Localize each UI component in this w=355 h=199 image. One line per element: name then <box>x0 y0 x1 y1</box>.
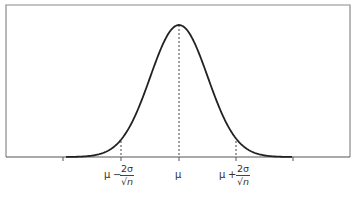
fraction-2sigma-over-sqrt-n: 2σ √n <box>120 164 134 186</box>
fraction-denominator: √n <box>121 176 133 187</box>
fraction-numerator: 2σ <box>236 164 250 176</box>
fraction-numerator: 2σ <box>120 164 134 176</box>
n-variable: n <box>243 176 249 187</box>
label-mu: μ <box>175 170 181 180</box>
plot-frame <box>6 5 350 157</box>
label-mu-plus-base: μ <box>219 170 225 180</box>
fraction-denominator: √n <box>237 176 249 187</box>
n-variable: n <box>127 176 133 187</box>
label-mu-minus-base: μ <box>104 170 110 180</box>
normal-distribution-figure: μ − 2σ √n μ μ + 2σ √n <box>0 0 355 199</box>
fraction-2sigma-over-sqrt-n: 2σ √n <box>236 164 250 186</box>
